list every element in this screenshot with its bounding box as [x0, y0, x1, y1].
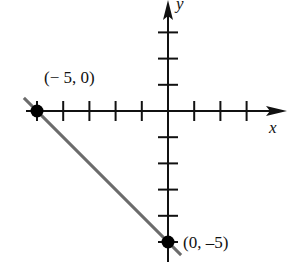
- axes: [26, 0, 287, 262]
- point-x-intercept: [31, 105, 44, 118]
- point-y-intercept: [162, 236, 175, 249]
- y-axis-label: y: [176, 0, 184, 14]
- point-label-y-intercept: (0, –5): [183, 233, 228, 253]
- point-label-x-intercept: (− 5, 0): [44, 68, 95, 88]
- coordinate-plane: [0, 0, 289, 276]
- line-series: [24, 98, 181, 255]
- data-line: [24, 98, 181, 255]
- x-axis-label: x: [269, 118, 277, 138]
- ticks: [37, 32, 247, 242]
